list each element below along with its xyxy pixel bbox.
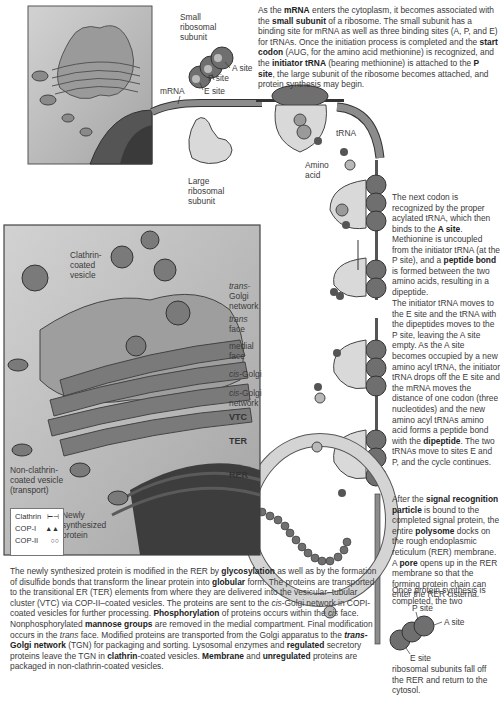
cop2-symbol-icon: ○○ bbox=[51, 535, 59, 547]
label-non-clathrin-coated-vesicle: Non-clathrin- coated vesicle (transport) bbox=[10, 465, 63, 495]
paragraph-synthesis-completed: Once protein synthesis is completed, the… bbox=[392, 585, 500, 606]
label-trans-face: transface bbox=[229, 314, 248, 334]
label-bottom-e-site: E site bbox=[410, 653, 431, 663]
coat-legend: Clathrin⊢⊣ COP-I▲▲ COP-II○○ bbox=[10, 508, 64, 556]
label-bottom-p-site: P site bbox=[412, 603, 433, 613]
golgi-overview-panel bbox=[28, 6, 152, 164]
legend-row-cop2: COP-II○○ bbox=[15, 535, 59, 547]
label-mrna: mRNA bbox=[160, 86, 185, 96]
paragraph-subunits-fall-off: ribosomal subunits fall off the RER and … bbox=[392, 664, 500, 696]
label-rer: RER bbox=[229, 470, 248, 480]
label-e-site: E site bbox=[204, 86, 225, 96]
label-trna: tRNA bbox=[336, 128, 356, 138]
mrna-band bbox=[152, 103, 262, 112]
paragraph-rer-golgi-processing: The newly synthesized protein is modifie… bbox=[10, 566, 382, 672]
label-a-site: A site bbox=[232, 63, 252, 73]
ribosome-elongation-3 bbox=[314, 340, 386, 403]
label-large-ribosomal-subunit: Large ribosomal subunit bbox=[188, 176, 224, 206]
label-amino-acid: Amino acid bbox=[305, 160, 329, 180]
label-cis-golgi-network: cis-Golgi network bbox=[229, 388, 262, 408]
label-small-ribosomal-subunit: Small ribosomal subunit bbox=[180, 12, 216, 42]
label-medial-face: medial face bbox=[229, 341, 254, 361]
paragraph-peptide-bond: Methionine is uncoupled from the initiat… bbox=[392, 234, 500, 298]
label-cis-golgi: cis-Golgi bbox=[229, 369, 262, 379]
label-newly-synthesized-protein: Newly synthesized protein bbox=[62, 510, 106, 540]
small-ribosomal-subunit-graphic bbox=[189, 47, 233, 90]
label-bottom-a-site: A site bbox=[444, 617, 464, 627]
paragraph-next-codon: The next codon is recognized by the prop… bbox=[392, 192, 500, 234]
legend-row-clathrin: Clathrin⊢⊣ bbox=[15, 511, 59, 523]
large-ribosomal-subunit-graphic bbox=[189, 118, 232, 164]
label-ter: TER bbox=[229, 436, 247, 446]
label-p-site: P site bbox=[208, 73, 229, 83]
label-vtc: VTC bbox=[229, 412, 247, 422]
cop1-symbol-icon: ▲▲ bbox=[45, 523, 59, 535]
legend-row-cop1: COP-I▲▲ bbox=[15, 523, 59, 535]
polypeptide-chain bbox=[258, 508, 351, 565]
golgi-panel bbox=[4, 225, 260, 555]
paragraph-translocation: The initiator tRNA moves to the E site a… bbox=[392, 298, 500, 468]
paragraph-initiation: As the mRNA enters the cytoplasm, it bec… bbox=[258, 5, 498, 90]
clathrin-symbol-icon: ⊢⊣ bbox=[47, 511, 59, 523]
label-clathrin-coated-vesicle: Clathrin- coated vesicle bbox=[70, 250, 102, 280]
ribosome-initiation-graphic bbox=[256, 85, 344, 152]
label-trans-golgi-network: trans-Golgi network bbox=[229, 281, 261, 311]
